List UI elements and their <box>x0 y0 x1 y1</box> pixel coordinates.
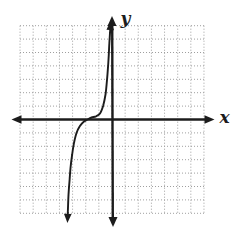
x-axis-left-arrow-icon <box>12 115 22 124</box>
y-axis-bottom-arrow-icon <box>109 217 118 227</box>
cubic-curve <box>64 21 114 223</box>
y-axis-label: y <box>120 8 132 28</box>
curve-bottom-arrow-icon <box>64 214 72 223</box>
y-axis-line <box>112 23 113 221</box>
curve-path <box>68 33 110 212</box>
x-axis-right-arrow-icon <box>205 115 215 124</box>
function-graph-figure: y x <box>0 0 238 236</box>
coordinate-plane-svg: y x <box>0 0 238 236</box>
x-axis-label: x <box>219 107 231 127</box>
